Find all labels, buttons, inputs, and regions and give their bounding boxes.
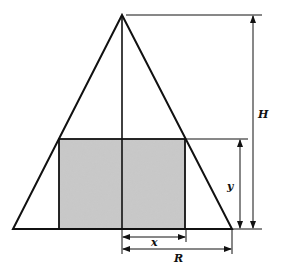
dimension-x: x xyxy=(123,236,185,249)
dimension-y: y xyxy=(226,140,240,228)
label-y: y xyxy=(226,180,235,193)
label-x: x xyxy=(150,236,158,249)
dimension-h: H xyxy=(253,16,269,228)
label-h: H xyxy=(257,108,269,121)
label-r: R xyxy=(173,252,183,265)
dimension-r: R xyxy=(123,249,231,265)
cone-cylinder-diagram: H y x R xyxy=(0,0,281,272)
